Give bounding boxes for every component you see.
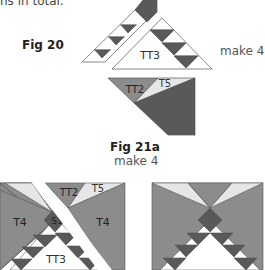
tt2-bottom-label: TT2 [59, 187, 78, 198]
t5-bottom-label: T5 [91, 183, 104, 194]
t4-right-label: T4 [95, 216, 110, 229]
tt3-label: TT3 [139, 49, 160, 62]
tt2-label: TT2 [125, 84, 144, 95]
quilt-diagram: TT3 TT2 T5 T4 S1 TT3 TT2 T5 T4 [0, 0, 265, 270]
t5-label: T5 [158, 78, 171, 89]
fig20-corner-unit: TT2 T5 [108, 78, 195, 135]
fig21a-right-block [152, 183, 263, 270]
t4-left-label: T4 [12, 216, 27, 229]
fig21a-left-block: T4 S1 TT3 TT2 T5 T4 [0, 183, 125, 270]
tt3-bottom-label: TT3 [45, 253, 66, 266]
